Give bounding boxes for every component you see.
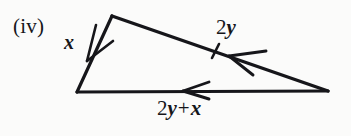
- side-label-left-variable: x: [64, 31, 74, 53]
- side-label-bottom-operator: +: [177, 96, 191, 120]
- enumeration-label: (iv): [13, 16, 44, 37]
- triangle-side-bottom: [77, 91, 328, 92]
- side-label-bottom-coefficient: 2: [157, 96, 168, 120]
- figure-container: (iv) x 2y 2y+x: [0, 0, 351, 136]
- side-label-right-coefficient: 2: [216, 15, 227, 39]
- side-label-bottom: 2y+x: [157, 98, 201, 119]
- side-label-right: 2y: [216, 17, 236, 38]
- side-label-bottom-variable: y: [168, 96, 177, 120]
- side-label-bottom-variable2: x: [191, 96, 202, 120]
- side-label-right-variable: y: [227, 15, 236, 39]
- side-label-left: x: [64, 32, 74, 52]
